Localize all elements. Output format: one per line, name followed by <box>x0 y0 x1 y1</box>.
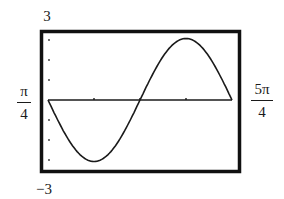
x-max-label: 5π 4 <box>249 82 275 120</box>
y-tick-dot <box>48 59 50 61</box>
plot-area <box>0 0 284 199</box>
x-min-numerator: π <box>20 84 28 99</box>
y-max-label: 3 <box>41 9 53 24</box>
x-min-denominator: 4 <box>20 107 28 122</box>
x-max-denominator: 4 <box>258 105 266 120</box>
fraction-bar <box>251 100 273 101</box>
y-min-label: −3 <box>32 182 56 197</box>
y-tick-dot <box>48 139 50 141</box>
fraction-bar <box>17 102 31 103</box>
y-tick-dot <box>48 119 50 121</box>
y-tick-dot <box>48 159 50 161</box>
y-tick-dot <box>48 79 50 81</box>
x-max-numerator: 5π <box>254 82 269 97</box>
x-min-label: π 4 <box>13 84 35 122</box>
y-tick-dot <box>48 39 50 41</box>
viewing-window-frame <box>42 32 240 172</box>
